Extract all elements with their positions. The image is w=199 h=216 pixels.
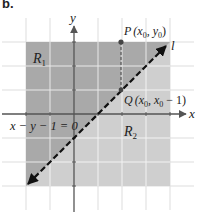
point-q	[119, 88, 124, 93]
point-p	[118, 39, 123, 44]
y-axis-label: y	[68, 10, 76, 25]
equation-label: x − y − 1 = 0	[9, 119, 78, 133]
line-l-label: l	[171, 38, 175, 53]
point-p-label: P(x0, y0)	[123, 24, 166, 40]
diagram: x y R1 R2 l x − y − 1 = 0 P(x0, y0) Q(x0…	[0, 0, 199, 216]
x-axis-label: x	[188, 106, 195, 121]
